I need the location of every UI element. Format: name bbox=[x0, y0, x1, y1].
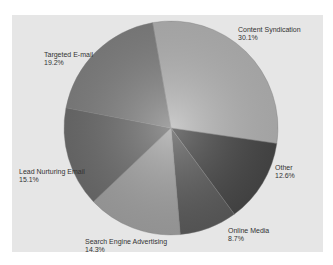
slice-label-name: Targeted E-mail bbox=[44, 51, 93, 59]
slice-label-percent: 30.1% bbox=[238, 34, 301, 42]
slice-label: Search Engine Advertising14.3% bbox=[85, 238, 167, 254]
slice-label: Online Media8.7% bbox=[228, 227, 269, 243]
slice-label: Lead Nurturing Email15.1% bbox=[19, 168, 85, 184]
slice-label-percent: 15.1% bbox=[19, 176, 85, 184]
slice-label-percent: 14.3% bbox=[85, 246, 167, 254]
slice-label: Targeted E-mail19.2% bbox=[44, 51, 93, 67]
slice-label-name: Content Syndication bbox=[238, 26, 301, 34]
slice-label-name: Search Engine Advertising bbox=[85, 238, 167, 246]
slice-label-name: Lead Nurturing Email bbox=[19, 168, 85, 176]
slice-label-name: Other bbox=[275, 164, 295, 172]
slice-label-name: Online Media bbox=[228, 227, 269, 235]
slice-label: Content Syndication30.1% bbox=[238, 26, 301, 42]
slice-label-percent: 12.6% bbox=[275, 172, 295, 180]
slice-label-percent: 19.2% bbox=[44, 59, 93, 67]
slice-label: Other12.6% bbox=[275, 164, 295, 180]
slice-label-percent: 8.7% bbox=[228, 235, 269, 243]
